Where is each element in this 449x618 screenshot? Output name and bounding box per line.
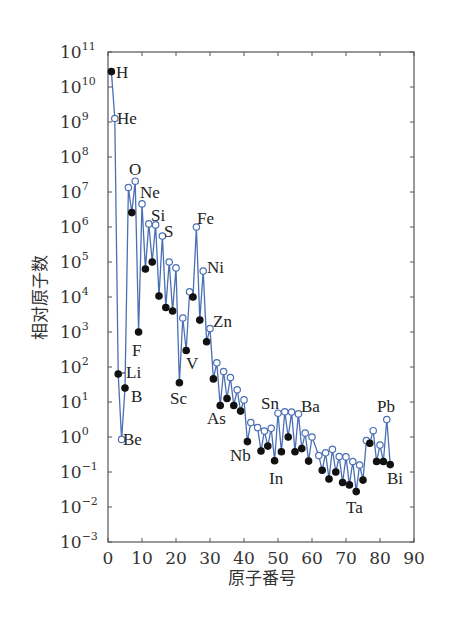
- marker-h: [108, 68, 114, 74]
- marker-ru: [254, 424, 260, 430]
- marker-k: [169, 308, 175, 314]
- x-tick-label: 80: [369, 548, 391, 568]
- x-tick-label: 50: [267, 548, 289, 568]
- marker-as: [217, 402, 223, 408]
- marker-in: [271, 458, 277, 464]
- marker-al: [149, 259, 155, 265]
- marker-pt: [370, 428, 376, 434]
- label-ba: Ba: [301, 397, 320, 416]
- marker-ag: [265, 443, 271, 449]
- label-ta: Ta: [346, 498, 363, 517]
- marker-c: [125, 184, 131, 190]
- marker-lu: [346, 482, 352, 488]
- abundance-line: [111, 72, 390, 492]
- marker-kr: [227, 374, 233, 380]
- marker-yb: [343, 454, 349, 460]
- marker-pd: [261, 428, 267, 434]
- marker-ta: [353, 488, 359, 494]
- marker-tl: [380, 458, 386, 464]
- marker-rb: [231, 402, 237, 408]
- plot-frame: [108, 52, 414, 542]
- marker-cl: [163, 304, 169, 310]
- marker-ga: [210, 376, 216, 382]
- marker-v: [183, 347, 189, 353]
- marker-rh: [258, 448, 264, 454]
- y-tick-label: 1010: [60, 75, 96, 97]
- y-tick-label: 109: [60, 110, 89, 132]
- marker-dy: [329, 446, 335, 452]
- label-f: F: [132, 341, 141, 360]
- marker-se: [220, 368, 226, 374]
- marker-i: [285, 434, 291, 440]
- label-be: Be: [123, 430, 142, 449]
- marker-sb: [278, 449, 284, 455]
- y-tick-label: 104: [60, 285, 89, 307]
- x-axis-title: 原子番号: [228, 568, 296, 588]
- marker-cs: [292, 449, 298, 455]
- marker-re: [360, 477, 366, 483]
- y-tick-label: 10−3: [60, 530, 98, 552]
- marker-nb: [244, 438, 250, 444]
- x-tick-label: 0: [103, 548, 114, 568]
- y-tick-label: 101: [60, 390, 89, 412]
- label-he: He: [117, 109, 137, 128]
- marker-n: [129, 209, 135, 215]
- y-tick-label: 10−1: [60, 460, 98, 482]
- label-ni: Ni: [207, 258, 224, 277]
- y-tick-label: 105: [60, 250, 89, 272]
- x-tick-label: 60: [301, 548, 323, 568]
- marker-pb: [384, 416, 390, 422]
- marker-pr: [305, 458, 311, 464]
- label-li: Li: [126, 363, 141, 382]
- label-in: In: [269, 469, 284, 488]
- marker-li: [115, 371, 121, 377]
- marker-co: [197, 317, 203, 323]
- x-tick-label: 70: [335, 548, 357, 568]
- y-tick-label: 106: [60, 215, 89, 237]
- marker-sc: [176, 380, 182, 386]
- marker-p: [156, 293, 162, 299]
- marker-zr: [241, 397, 247, 403]
- marker-mn: [190, 294, 196, 300]
- x-axis-ticks: 0102030405060708090: [103, 52, 425, 568]
- marker-b: [122, 385, 128, 391]
- label-fe: Fe: [197, 209, 214, 228]
- marker-ti: [180, 315, 186, 321]
- marker-sm: [316, 452, 322, 458]
- x-tick-label: 90: [403, 548, 425, 568]
- marker-na: [142, 266, 148, 272]
- marker-hg: [377, 442, 383, 448]
- marker-y: [237, 408, 243, 414]
- marker-w: [356, 462, 362, 468]
- label-o: O: [129, 160, 141, 179]
- marker-ar: [166, 259, 172, 265]
- marker-ge: [214, 360, 220, 366]
- marker-te: [282, 409, 288, 415]
- y-tick-label: 102: [60, 355, 89, 377]
- marker-ni: [200, 268, 206, 274]
- marker-ce: [302, 430, 308, 436]
- label-bi: Bi: [387, 469, 403, 488]
- label-pb: Pb: [377, 397, 395, 416]
- y-tick-label: 10−2: [60, 495, 98, 517]
- y-tick-label: 100: [60, 425, 89, 447]
- label-s: S: [164, 222, 173, 241]
- plot-border: [108, 52, 414, 542]
- x-tick-label: 20: [165, 548, 187, 568]
- label-v: V: [186, 354, 199, 373]
- label-h: H: [116, 63, 128, 82]
- marker-ho: [333, 469, 339, 475]
- marker-cd: [268, 425, 274, 431]
- marker-tb: [326, 476, 332, 482]
- label-nb: Nb: [230, 446, 251, 465]
- marker-tm: [339, 479, 345, 485]
- marker-sr: [234, 387, 240, 393]
- label-sc: Sc: [170, 389, 187, 408]
- marker-cu: [203, 339, 209, 345]
- marker-au: [373, 458, 379, 464]
- y-tick-label: 1011: [60, 40, 96, 62]
- marker-gd: [322, 450, 328, 456]
- x-tick-label: 30: [199, 548, 221, 568]
- y-tick-label: 108: [60, 145, 89, 167]
- label-sn: Sn: [261, 394, 279, 413]
